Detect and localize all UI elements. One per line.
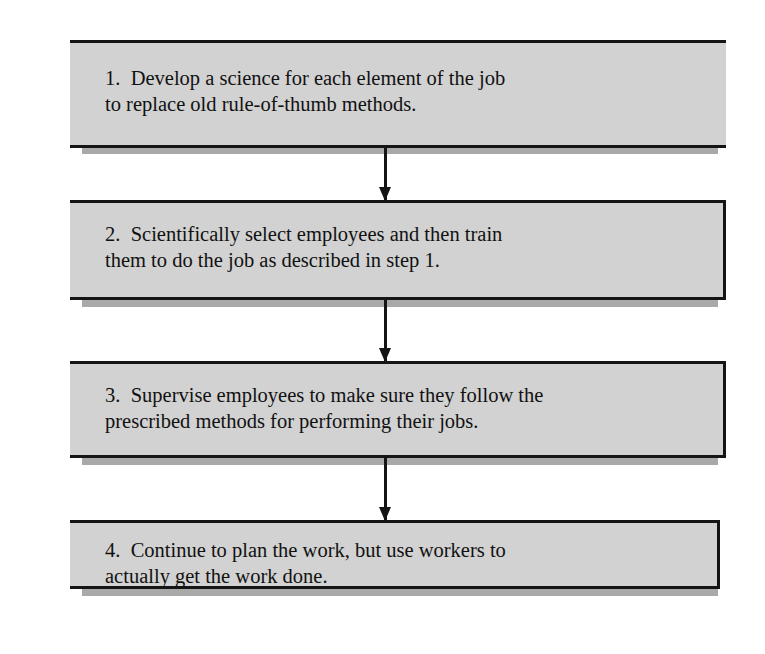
step-2-line-1: 2. Scientifically select employees and t…: [105, 223, 502, 245]
arrow-1-to-2: [384, 148, 387, 201]
step-3-line-2: prescribed methods for performing their …: [105, 410, 478, 432]
step-3-text: 3. Supervise employees to make sure they…: [105, 382, 543, 434]
step-2-line-2: them to do the job as described in step …: [105, 249, 440, 271]
arrow-3-to-4: [384, 458, 387, 521]
step-1-text: 1. Develop a science for each element of…: [105, 65, 505, 117]
step-1-box: 1. Develop a science for each element of…: [70, 40, 726, 148]
arrow-2-to-3: [384, 300, 387, 362]
step-4-line-2: actually get the work done.: [105, 565, 328, 587]
step-1-line-1: 1. Develop a science for each element of…: [105, 67, 505, 89]
step-4-line-1: 4. Continue to plan the work, but use wo…: [105, 539, 506, 561]
step-4-text: 4. Continue to plan the work, but use wo…: [105, 537, 506, 589]
step-3-box: 3. Supervise employees to make sure they…: [70, 361, 726, 458]
step-2-box: 2. Scientifically select employees and t…: [70, 200, 726, 300]
step-1-line-2: to replace old rule-of-thumb methods.: [105, 93, 416, 115]
step-3-line-1: 3. Supervise employees to make sure they…: [105, 384, 543, 406]
step-4-box: 4. Continue to plan the work, but use wo…: [70, 520, 720, 589]
step-2-text: 2. Scientifically select employees and t…: [105, 221, 502, 273]
